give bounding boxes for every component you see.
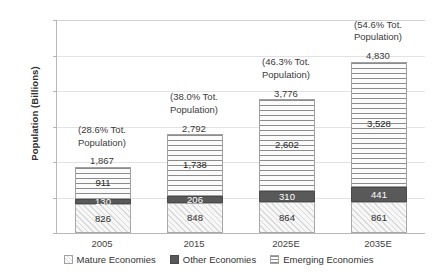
population-share-annotation-line: (54.6% Tot.: [332, 19, 424, 32]
y-axis-tick-mark: [53, 20, 57, 21]
bar-segment-value-label: 848: [187, 213, 203, 223]
bar-segment[interactable]: 826: [75, 204, 131, 233]
population-share-annotation-line: Population): [240, 69, 332, 82]
y-axis-tick-mark: [53, 91, 57, 92]
bar-total-value: 4,830: [332, 50, 424, 63]
legend-swatch-icon: [270, 255, 279, 264]
bar-total-value: 1,867: [56, 155, 148, 168]
population-share-annotation-line: (38.0% Tot.: [148, 91, 240, 104]
bar-segment[interactable]: 861: [351, 202, 407, 233]
bar-group[interactable]: 8643102,602: [259, 20, 315, 233]
legend-item-label: Emerging Economies: [283, 254, 373, 265]
population-share-annotation-line: (46.3% Tot.: [240, 56, 332, 69]
legend-item[interactable]: Mature Economies: [64, 254, 156, 265]
bar-segment-value-label: 861: [371, 213, 387, 223]
x-axis-tick-label: 2015: [148, 238, 240, 249]
bar-total-value: 2,792: [148, 123, 240, 136]
bar-segment[interactable]: 206: [167, 196, 223, 203]
bar-segment-value-label: 2,602: [275, 140, 299, 150]
legend-item[interactable]: Emerging Economies: [270, 254, 373, 265]
bar-segment[interactable]: 130: [75, 199, 131, 204]
bar-segment-value-label: 206: [187, 195, 203, 205]
bar-segment[interactable]: 848: [167, 203, 223, 233]
bar-segment-value-label: 310: [279, 192, 295, 202]
bar-segment[interactable]: 1,738: [167, 134, 223, 196]
bar-segment[interactable]: 2,602: [259, 99, 315, 191]
population-share-annotation-line: Population): [332, 31, 424, 44]
legend-item-label: Other Economies: [183, 254, 256, 265]
bar-segment[interactable]: 3,528: [351, 62, 407, 187]
bar-segment-value-label: 441: [371, 190, 387, 200]
bar-total-annotation: (38.0% Tot.Population)2,792: [148, 91, 240, 135]
bar-segment-value-label: 3,528: [367, 119, 391, 129]
y-axis-tick-mark: [53, 233, 57, 234]
bar-segment[interactable]: 864: [259, 202, 315, 233]
x-axis-tick-label: 2025E: [240, 238, 332, 249]
bar-segment-value-label: 1,738: [183, 160, 207, 170]
bar-segment[interactable]: 441: [351, 187, 407, 203]
legend-item-label: Mature Economies: [77, 254, 156, 265]
y-axis-tick-mark: [53, 198, 57, 199]
stacked-bar-chart: Population (Billions) 01,0002,0003,0004,…: [0, 0, 437, 277]
population-share-annotation-line: Population): [148, 104, 240, 117]
bar-total-annotation: (28.6% Tot.Population)1,867: [56, 124, 148, 168]
bar-segment-value-label: 911: [95, 178, 110, 188]
legend-swatch-icon: [64, 255, 73, 264]
y-axis-title: Population (Billions): [29, 24, 40, 204]
chart-legend: Mature EconomiesOther EconomiesEmerging …: [0, 254, 437, 265]
y-axis-tick-mark: [53, 56, 57, 57]
bar-total-annotation: (46.3% Tot.Population)3,776: [240, 56, 332, 100]
x-axis-tick-label: 2005: [56, 238, 148, 249]
bar-segment[interactable]: 911: [75, 167, 131, 199]
bar-total-value: 3,776: [240, 88, 332, 101]
legend-swatch-icon: [170, 255, 179, 264]
bar-segment-value-label: 826: [95, 214, 111, 224]
bar-segment[interactable]: 310: [259, 191, 315, 202]
bar-segment-value-label: 864: [279, 213, 295, 223]
population-share-annotation-line: Population): [56, 137, 148, 150]
x-axis-tick-label: 2035E: [332, 238, 424, 249]
legend-item[interactable]: Other Economies: [170, 254, 256, 265]
bar-total-annotation: (54.6% Tot.Population)4,830: [332, 19, 424, 63]
population-share-annotation-line: (28.6% Tot.: [56, 124, 148, 137]
